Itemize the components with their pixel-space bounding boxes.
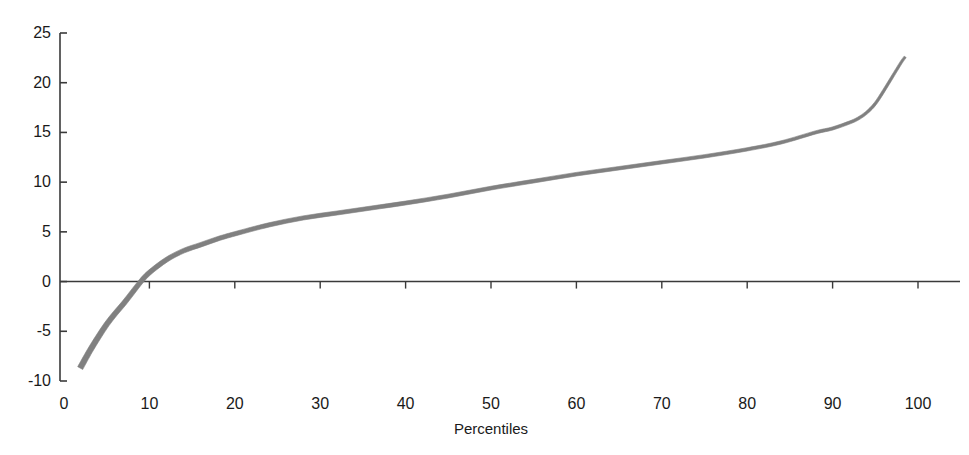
x-tick-label: 20 <box>226 396 244 412</box>
percentile-chart: 2520151050-5-10 0102030405060708090100 P… <box>0 0 969 455</box>
x-tick-label: 0 <box>60 396 69 412</box>
series-group <box>78 56 907 369</box>
x-tick-label: 70 <box>653 396 671 412</box>
y-tick-label: 15 <box>33 124 51 140</box>
plot-area <box>0 0 969 455</box>
x-tick-label: 60 <box>567 396 585 412</box>
y-tick-label: -10 <box>28 373 51 389</box>
y-tick-label: 20 <box>33 75 51 91</box>
x-tick-label: 90 <box>824 396 842 412</box>
axis-group <box>60 33 960 381</box>
x-tick-label: 80 <box>738 396 756 412</box>
y-tick-label: 0 <box>42 274 51 290</box>
x-axis-title: Percentiles <box>454 421 528 436</box>
y-tick-label: 5 <box>42 224 51 240</box>
percentile-curve <box>78 56 907 369</box>
y-tick-label: 25 <box>33 25 51 41</box>
y-tick-label: -5 <box>37 323 51 339</box>
x-tick-label: 100 <box>905 396 932 412</box>
x-tick-label: 10 <box>140 396 158 412</box>
x-tick-label: 30 <box>311 396 329 412</box>
x-tick-label: 40 <box>397 396 415 412</box>
y-tick-label: 10 <box>33 174 51 190</box>
x-tick-label: 50 <box>482 396 500 412</box>
